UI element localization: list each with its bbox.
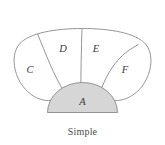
region-diagram: C D E F A	[0, 0, 165, 124]
figure-caption: Simple	[0, 126, 165, 137]
region-label-c: C	[26, 64, 34, 75]
region-label-d: D	[58, 43, 67, 54]
region-label-f: F	[121, 64, 129, 75]
region-label-a: A	[78, 96, 86, 107]
figure-root: C D E F A Simple	[0, 0, 165, 145]
region-label-e: E	[92, 43, 100, 54]
